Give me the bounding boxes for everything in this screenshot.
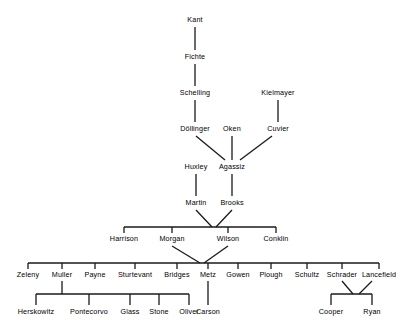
node-muller: Muller — [52, 271, 72, 278]
node-glass: Glass — [120, 308, 139, 315]
node-carson: Carson — [196, 308, 220, 315]
node-payne: Payne — [84, 271, 105, 278]
lineage-node-labels: Kant Fichte Schelling Kielmayer Döllinge… — [0, 0, 402, 333]
node-martin: Martin — [186, 199, 207, 206]
node-morgan: Morgan — [159, 235, 184, 242]
node-dollinger: Döllinger — [180, 125, 210, 132]
node-sturtevant: Sturtevant — [118, 271, 152, 278]
node-ryan: Ryan — [363, 308, 380, 315]
node-pontecorvo: Pontecorvo — [70, 308, 108, 315]
node-wilson: Wilson — [217, 235, 239, 242]
node-schultz: Schultz — [295, 271, 320, 278]
node-agassiz: Agassiz — [219, 163, 245, 170]
node-huxley: Huxley — [185, 163, 208, 170]
node-cooper: Cooper — [319, 308, 343, 315]
lineage-diagram: Kant Fichte Schelling Kielmayer Döllinge… — [0, 0, 402, 333]
node-conklin: Conklin — [264, 235, 289, 242]
node-cuvier: Cuvier — [267, 125, 289, 132]
node-bridges: Bridges — [164, 271, 189, 278]
node-kielmayer: Kielmayer — [261, 89, 294, 96]
node-plough: Plough — [259, 271, 282, 278]
node-gowen: Gowen — [226, 271, 250, 278]
node-lancefield: Lancefield — [362, 271, 396, 278]
node-herskowitz: Herskowitz — [18, 308, 55, 315]
node-schelling: Schelling — [180, 89, 210, 96]
node-oken: Oken — [223, 125, 241, 132]
node-brooks: Brooks — [220, 199, 243, 206]
node-schrader: Schrader — [327, 271, 357, 278]
node-stone: Stone — [149, 308, 169, 315]
node-zeleny: Zeleny — [17, 271, 39, 278]
node-kant: Kant — [187, 16, 202, 23]
node-fichte: Fichte — [185, 53, 205, 60]
node-metz: Metz — [200, 271, 216, 278]
node-harrison: Harrison — [110, 235, 138, 242]
